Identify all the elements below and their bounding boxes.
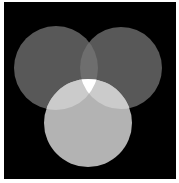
venn-circles-graphic: [0, 0, 179, 183]
